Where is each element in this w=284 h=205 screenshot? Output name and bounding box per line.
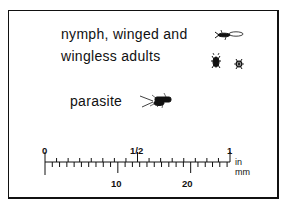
unit-in-label: in <box>235 158 242 167</box>
scale-label-10mm: 10 <box>111 179 122 189</box>
wingless-adult-icon <box>234 59 244 69</box>
parasite-wasp-icon <box>140 93 171 108</box>
winged-adult-icon <box>215 30 243 40</box>
scale-label-20mm: 20 <box>182 179 193 189</box>
unit-mm-label: mm <box>235 168 250 177</box>
scale-label-0: 0 <box>42 146 47 156</box>
nymph-icon <box>211 53 221 68</box>
scale-label-half-inch: 1/2 <box>130 146 143 156</box>
scale-label-1-inch: 1 <box>227 146 232 156</box>
